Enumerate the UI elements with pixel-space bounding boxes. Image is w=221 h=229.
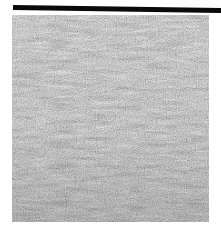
water-texture xyxy=(12,15,209,222)
image-canvas xyxy=(0,0,221,229)
top-black-bar xyxy=(13,5,221,13)
texture-graphic xyxy=(12,15,209,222)
